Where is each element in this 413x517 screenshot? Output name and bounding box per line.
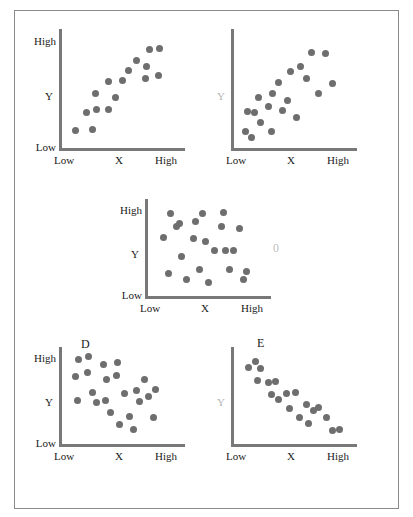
data-point [74, 397, 81, 404]
data-point [257, 119, 264, 126]
data-point [252, 358, 259, 365]
panel-b-y-axis [231, 29, 234, 151]
data-point [293, 114, 300, 121]
data-point [220, 209, 227, 216]
panel-e: Y E – Low X High [231, 347, 367, 467]
data-point [112, 94, 119, 101]
data-point [287, 68, 294, 75]
data-point [190, 235, 197, 242]
data-point [75, 356, 82, 363]
data-point [315, 404, 322, 411]
data-point [257, 365, 264, 372]
data-point [323, 414, 330, 421]
data-point [305, 420, 312, 427]
data-point [196, 266, 203, 273]
data-point [105, 106, 112, 113]
panel-c-y-low-label: Low [114, 290, 142, 301]
data-point [156, 45, 163, 52]
data-point [155, 72, 162, 79]
data-point [150, 414, 157, 421]
data-point [222, 247, 229, 254]
panel-d: High Y Low D – Low X High [59, 347, 195, 467]
data-point [107, 409, 114, 416]
data-point [141, 376, 148, 383]
data-point [248, 134, 255, 141]
panel-d-x-axis [59, 444, 185, 447]
data-point [119, 77, 126, 84]
panel-c-y-high-label: High [114, 205, 142, 216]
data-point [126, 413, 133, 420]
data-point [114, 359, 121, 366]
data-point [243, 268, 250, 275]
panel-c-y-axis [145, 199, 148, 299]
panel-b-plot-area [235, 31, 353, 145]
data-point [275, 396, 282, 403]
data-point [145, 393, 152, 400]
panel-a-y-axis-label: Y [45, 91, 53, 102]
data-point [100, 361, 107, 368]
panel-c-x-axis-label: X [201, 303, 209, 314]
data-point [125, 67, 132, 74]
panel-a-x-high-label: High [155, 155, 177, 166]
panel-c-annotation: 0 [273, 242, 279, 254]
data-point [133, 387, 140, 394]
panel-e-x-axis [231, 444, 357, 447]
data-point [183, 276, 190, 283]
data-point [176, 220, 183, 227]
data-point [251, 109, 258, 116]
data-point [315, 90, 322, 97]
data-point [292, 389, 299, 396]
panel-c-y-axis-label: Y [131, 249, 139, 260]
panel-b-x-axis [231, 148, 357, 151]
panel-d-y-axis [59, 347, 62, 447]
data-point [254, 377, 261, 384]
data-point [152, 386, 159, 393]
panel-b-x-high-label: High [327, 155, 349, 166]
data-point [308, 49, 315, 56]
data-point [93, 399, 100, 406]
panel-a-y-low-label: Low [28, 142, 56, 153]
data-point [121, 390, 128, 397]
data-point [165, 270, 172, 277]
data-point [202, 238, 209, 245]
panel-e-y-axis [231, 347, 234, 447]
data-point [297, 63, 304, 70]
panel-e-x-high-label: High [327, 451, 349, 462]
panel-d-x-low-label: Low [54, 451, 74, 462]
data-point [192, 218, 199, 225]
data-point [245, 364, 252, 371]
data-point [130, 426, 137, 433]
data-point [146, 46, 153, 53]
data-point [275, 79, 282, 86]
data-point [218, 223, 225, 230]
data-point [143, 63, 150, 70]
panel-a: High Y Low A + Low X High [59, 29, 195, 165]
data-point [244, 108, 251, 115]
data-point [242, 128, 249, 135]
data-point [296, 414, 303, 421]
data-point [279, 107, 286, 114]
panel-d-y-low-label: Low [28, 438, 56, 449]
panel-d-plot-area [63, 349, 181, 442]
panel-c-x-axis [145, 296, 271, 299]
panel-a-x-axis-label: X [115, 155, 123, 166]
data-point [116, 421, 123, 428]
data-point [83, 109, 90, 116]
panel-b-y-axis-label: Y [217, 91, 225, 102]
data-point [84, 369, 91, 376]
data-point [303, 401, 310, 408]
panel-a-x-low-label: Low [54, 155, 74, 166]
panel-a-plot-area [63, 31, 181, 145]
panel-d-y-axis-label: Y [45, 397, 53, 408]
data-point [102, 397, 109, 404]
panel-c-plot-area [149, 201, 267, 294]
data-point [226, 266, 233, 273]
panel-e-title: E [257, 337, 264, 349]
data-point [336, 426, 343, 433]
panel-d-y-high-label: High [28, 353, 56, 364]
data-point [268, 391, 275, 398]
data-point [133, 57, 140, 64]
data-point [272, 378, 279, 385]
data-point [199, 210, 206, 217]
data-point [160, 234, 167, 241]
